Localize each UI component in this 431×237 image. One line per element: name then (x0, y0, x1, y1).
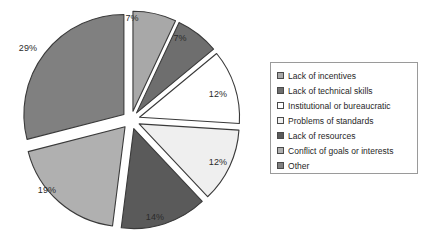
legend-item-label: Lack of resources (288, 131, 355, 141)
legend-item[interactable]: Lack of resources (277, 128, 417, 143)
pie-slice-label: 19% (38, 185, 56, 195)
legend-item[interactable]: Other (277, 158, 417, 173)
legend-item-list: Lack of incentivesLack of technical skil… (277, 68, 417, 173)
legend-swatch-icon (277, 132, 284, 139)
pie-slice-label: 29% (19, 43, 37, 53)
legend-item-label: Problems of standards (288, 116, 373, 126)
legend-item[interactable]: Lack of incentives (277, 68, 417, 83)
legend-item-label: Lack of technical skills (288, 86, 373, 96)
legend-item[interactable]: Lack of technical skills (277, 83, 417, 98)
pie-slice[interactable] (24, 14, 124, 139)
legend-item-label: Lack of incentives (288, 71, 356, 81)
legend-item-label: Conflict of goals or interests (288, 146, 393, 156)
pie-slice[interactable] (28, 127, 125, 226)
legend-item[interactable]: Conflict of goals or interests (277, 143, 417, 158)
legend-item[interactable]: Institutional or bureaucratic (277, 98, 417, 113)
chart-page: 7%7%12%12%14%19%29% Lack of incentivesLa… (0, 0, 431, 237)
chart-legend: Lack of incentivesLack of technical skil… (270, 62, 418, 174)
legend-swatch-icon (277, 72, 284, 79)
legend-swatch-icon (277, 87, 284, 94)
legend-swatch-icon (277, 147, 284, 154)
legend-swatch-icon (277, 117, 284, 124)
pie-chart-svg (0, 0, 262, 237)
pie-slice-label: 14% (146, 212, 164, 222)
legend-item[interactable]: Problems of standards (277, 113, 417, 128)
pie-slice-label: 7% (125, 13, 138, 23)
legend-item-label: Other (288, 161, 309, 171)
legend-swatch-icon (277, 162, 284, 169)
pie-chart: 7%7%12%12%14%19%29% (0, 0, 262, 237)
legend-item-label: Institutional or bureaucratic (288, 101, 391, 111)
pie-slice-label: 7% (173, 33, 186, 43)
pie-slice-group (24, 11, 240, 228)
pie-slice-label: 12% (209, 157, 227, 167)
legend-swatch-icon (277, 102, 284, 109)
pie-slice-label: 12% (209, 89, 227, 99)
